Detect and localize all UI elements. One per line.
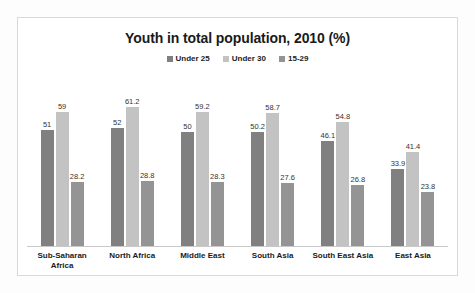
bar-value-label: 50.2 [250,122,265,131]
chart-legend: Under 25Under 3015-29 [18,54,457,63]
bar-column: 61.2 [126,73,139,246]
bar[interactable] [56,112,69,246]
bar-value-label: 61.2 [125,97,140,106]
bar[interactable] [71,182,84,246]
bar-column: 27.6 [281,73,294,246]
bar-value-label: 27.6 [280,173,295,182]
bar-group: 5059.228.3 [167,73,237,246]
bar[interactable] [196,112,209,246]
x-axis-label: Middle East [167,251,237,271]
plot-region: 515928.25261.228.85059.228.350.258.727.6… [27,73,448,268]
chart-title: Youth in total population, 2010 (%) [18,30,457,46]
legend-item-0[interactable]: Under 25 [167,54,210,63]
bar[interactable] [391,169,404,246]
bar-group: 33.941.423.8 [378,73,448,246]
x-axis-label: South Asia [238,251,308,271]
bar-column: 41.4 [406,73,419,246]
bar[interactable] [266,113,279,246]
bar-value-label: 28.2 [70,172,85,181]
bar-value-label: 28.8 [140,171,155,180]
bar-column: 28.2 [71,73,84,246]
bar[interactable] [126,107,139,246]
bar-value-label: 59.2 [195,102,210,111]
bar-group: 50.258.727.6 [238,73,308,246]
bar-value-label: 46.1 [320,131,335,140]
legend-label: 15-29 [288,54,308,63]
x-axis-label: South East Asia [308,251,378,271]
bar-column: 54.8 [336,73,349,246]
legend-item-1[interactable]: Under 30 [223,54,266,63]
bar-group: 46.154.826.8 [308,73,378,246]
legend-item-2[interactable]: 15-29 [279,54,308,63]
bar-column: 59.2 [196,73,209,246]
bar[interactable] [406,152,419,246]
plot-area: 515928.25261.228.85059.228.350.258.727.6… [27,73,448,246]
legend-label: Under 30 [232,54,266,63]
bar-value-label: 50 [183,122,191,131]
bar[interactable] [336,122,349,246]
bar-group: 515928.2 [27,73,97,246]
bar[interactable] [421,192,434,246]
bar-value-label: 23.8 [421,182,436,191]
bar[interactable] [211,182,224,246]
legend-swatch-icon [223,56,229,62]
bar-column: 26.8 [351,73,364,246]
x-axis-label: East Asia [378,251,448,271]
bar-value-label: 33.9 [391,159,406,168]
bar-value-label: 28.3 [210,172,225,181]
page-background: Youth in total population, 2010 (%) Unde… [0,0,475,293]
bar-column: 23.8 [421,73,434,246]
bar-value-label: 51 [43,120,51,129]
bar[interactable] [251,132,264,246]
bar-column: 51 [41,73,54,246]
bar-column: 46.1 [321,73,334,246]
bar[interactable] [141,181,154,246]
bar[interactable] [351,185,364,246]
axis-baseline [27,246,448,247]
chart-frame: Youth in total population, 2010 (%) Unde… [17,17,458,276]
bar-column: 50.2 [251,73,264,246]
legend-swatch-icon [279,56,285,62]
legend-label: Under 25 [176,54,210,63]
bar-value-label: 26.8 [350,175,365,184]
bar[interactable] [281,183,294,246]
bar[interactable] [41,130,54,246]
bar-column: 50 [181,73,194,246]
bar-value-label: 41.4 [406,142,421,151]
bar-column: 52 [111,73,124,246]
bar[interactable] [111,128,124,246]
bar-value-label: 58.7 [265,103,280,112]
bar-groups: 515928.25261.228.85059.228.350.258.727.6… [27,73,448,246]
bar-column: 59 [56,73,69,246]
bar[interactable] [321,141,334,246]
x-axis-label: Sub-Saharan Africa [27,251,97,271]
bar-column: 58.7 [266,73,279,246]
bar[interactable] [181,132,194,246]
bar-column: 28.3 [211,73,224,246]
bar-column: 33.9 [391,73,404,246]
bar-group: 5261.228.8 [97,73,167,246]
x-axis-labels: Sub-Saharan AfricaNorth AfricaMiddle Eas… [27,251,448,271]
legend-swatch-icon [167,56,173,62]
bar-value-label: 54.8 [335,112,350,121]
bar-column: 28.8 [141,73,154,246]
bar-value-label: 59 [58,102,66,111]
bar-value-label: 52 [113,118,121,127]
x-axis-label: North Africa [97,251,167,271]
